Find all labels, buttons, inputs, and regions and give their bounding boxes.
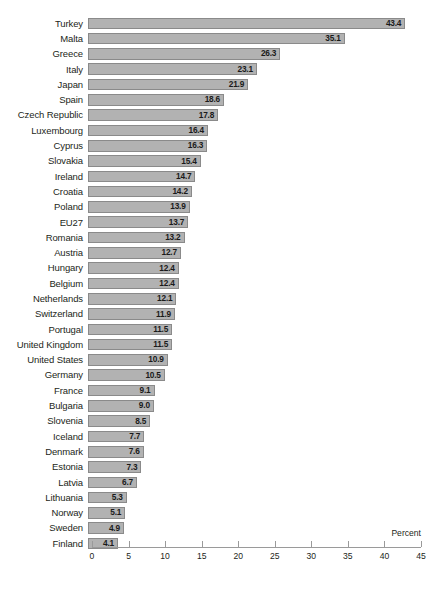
bar-row: Switzerland11.9 [0,307,439,322]
bar[interactable]: 12.4 [88,262,179,274]
category-label: Estonia [0,462,88,472]
bar-value-label: 12.1 [157,294,175,303]
bar-row: Italy23.1 [0,62,439,77]
category-label: Austria [0,248,88,258]
bar[interactable]: 11.5 [88,339,172,351]
bar-track: 9.1 [88,383,439,398]
bar-value-label: 13.9 [170,202,188,211]
bar-track: 4.1 [88,536,439,551]
bar-track: 7.6 [88,444,439,459]
bar[interactable]: 13.7 [88,216,188,228]
bar-value-label: 35.1 [325,34,343,43]
category-label: Denmark [0,447,88,457]
bar[interactable]: 12.1 [88,293,176,305]
bar-value-label: 11.5 [153,325,171,334]
bar-row: Germany10.5 [0,368,439,383]
bar-track: 12.7 [88,245,439,260]
bar[interactable]: 23.1 [88,63,257,75]
bar[interactable]: 5.1 [88,507,125,519]
bar[interactable]: 18.6 [88,94,224,106]
category-label: France [0,386,88,396]
bar-value-label: 4.1 [103,539,117,548]
bar-track: 11.5 [88,322,439,337]
bar-track: 8.5 [88,414,439,429]
bar[interactable]: 10.5 [88,369,165,381]
bar[interactable]: 5.3 [88,492,127,504]
bar-row: Japan21.9 [0,77,439,92]
bar-track: 11.9 [88,307,439,322]
category-label: Ireland [0,172,88,182]
bar-value-label: 17.8 [199,111,217,120]
bar-row: United States10.9 [0,353,439,368]
bar[interactable]: 7.7 [88,431,144,443]
bar-track: 5.3 [88,490,439,505]
bar-row: Slovenia8.5 [0,414,439,429]
bar-row: Cyprus16.3 [0,138,439,153]
bar[interactable]: 35.1 [88,33,345,45]
x-axis-tick-label: 40 [380,551,390,561]
bar[interactable]: 17.8 [88,109,218,121]
bar-row: Denmark7.6 [0,444,439,459]
bar-row: United Kingdom11.5 [0,337,439,352]
bar[interactable]: 21.9 [88,79,248,91]
bar-value-label: 26.3 [261,49,279,58]
bar-value-label: 18.6 [205,95,223,104]
bar[interactable]: 8.5 [88,415,150,427]
bar[interactable]: 4.9 [88,522,124,534]
x-axis-tick-label: 25 [270,551,280,561]
bar-row: Finland4.1 [0,536,439,551]
bar-track: 17.8 [88,108,439,123]
bar-value-label: 23.1 [238,65,256,74]
bar-row: Poland13.9 [0,200,439,215]
bar[interactable]: 9.1 [88,385,155,397]
bar[interactable]: 6.7 [88,477,137,489]
category-label: Finland [0,539,88,549]
bar[interactable]: 11.5 [88,324,172,336]
bar[interactable]: 14.2 [88,186,192,198]
x-axis-tick-label: 10 [160,551,170,561]
bar-value-label: 12.4 [159,264,177,273]
bar-row: Lithuania5.3 [0,490,439,505]
bar[interactable]: 9.0 [88,400,154,412]
bar-track: 13.7 [88,215,439,230]
bar-value-label: 10.9 [148,355,166,364]
bar-value-label: 9.1 [140,386,154,395]
bar-row: Czech Republic17.8 [0,108,439,123]
bar-track: 15.4 [88,154,439,169]
bar[interactable]: 4.1 [88,538,118,550]
bar[interactable]: 16.4 [88,125,208,137]
bar[interactable]: 12.4 [88,278,179,290]
bar[interactable]: 26.3 [88,48,280,60]
bar-track: 14.7 [88,169,439,184]
bar-row: Norway5.1 [0,506,439,521]
category-label: Switzerland [0,309,88,319]
category-label: Germany [0,370,88,380]
bar-row: Bulgaria9.0 [0,398,439,413]
bar-track: 10.5 [88,368,439,383]
bar-row: Latvia6.7 [0,475,439,490]
bar-track: 7.7 [88,429,439,444]
bar-value-label: 6.7 [122,478,136,487]
bar[interactable]: 12.7 [88,247,181,259]
bar[interactable]: 16.3 [88,140,207,152]
bar[interactable]: 13.2 [88,232,185,244]
x-axis-tick-label: 15 [197,551,207,561]
bar-track: 26.3 [88,47,439,62]
bar[interactable]: 13.9 [88,201,190,213]
category-label: Japan [0,80,88,90]
category-label: Slovakia [0,156,88,166]
bar[interactable]: 7.6 [88,446,144,458]
bar[interactable]: 14.7 [88,171,195,183]
bar[interactable]: 15.4 [88,155,201,167]
category-label: Netherlands [0,294,88,304]
category-label: Slovenia [0,416,88,426]
bar[interactable]: 10.9 [88,354,168,366]
bar-value-label: 5.3 [112,493,126,502]
bar[interactable]: 7.3 [88,461,141,473]
category-label: Portugal [0,325,88,335]
bar[interactable]: 11.9 [88,308,175,320]
bar-track: 16.4 [88,123,439,138]
category-label: Italy [0,65,88,75]
bar[interactable]: 43.4 [88,18,405,30]
category-label: Belgium [0,279,88,289]
